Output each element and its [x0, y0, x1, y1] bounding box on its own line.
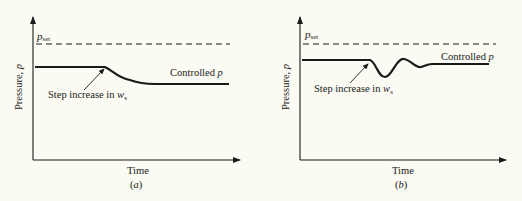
panel-a-annotation-arrow — [84, 69, 104, 90]
panel-b-annotation-arrow — [350, 64, 368, 83]
panel-a-curve-label: Controlled p — [170, 67, 223, 78]
panel-b: pset Controlled p Step increase in ws Pr… — [280, 17, 506, 191]
panel-b-x-axis-label: Time — [392, 165, 414, 176]
panel-b-y-axis-label: Pressure, p — [280, 64, 291, 110]
panel-a-setpoint-label: pset — [36, 30, 50, 43]
panel-b-curve-label: Controlled p — [441, 51, 494, 62]
panel-b-caption: (b) — [395, 179, 408, 191]
panel-a-annotation-label: Step increase in ws — [48, 89, 127, 102]
panel-a-caption: (a) — [130, 179, 143, 191]
panel-b-setpoint-label: pset — [304, 28, 318, 41]
figure-canvas: pset Controlled p Step increase in ws Pr… — [0, 0, 522, 201]
panel-a-y-axis-label: Pressure, p — [13, 64, 24, 110]
panel-a-x-axis-label: Time — [127, 165, 149, 176]
panel-a: pset Controlled p Step increase in ws Pr… — [13, 17, 240, 191]
panel-b-annotation-label: Step increase in ws — [314, 83, 393, 96]
